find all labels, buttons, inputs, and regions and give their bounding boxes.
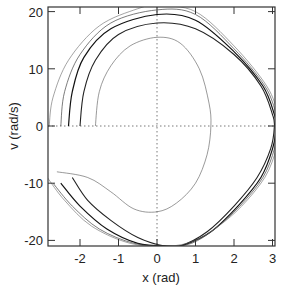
y-axis-ticks: -20-1001020: [24, 5, 275, 249]
y-axis-label: v (rad/s): [6, 102, 21, 150]
plot-frame: [48, 7, 275, 246]
x-tick-label: 2: [230, 251, 237, 266]
y-tick-label: 20: [29, 5, 43, 20]
x-tick-label: 1: [192, 251, 199, 266]
x-tick-label: -1: [113, 251, 125, 266]
x-axis-label: x (rad): [142, 270, 180, 285]
y-tick-label: 0: [36, 119, 43, 134]
grid-lines: [48, 7, 275, 246]
y-tick-label: -10: [24, 176, 43, 191]
y-tick-label: 10: [29, 62, 43, 77]
trajectory-orbit-3: [61, 14, 277, 247]
trajectory-curves: [47, 6, 280, 248]
x-tick-label: 0: [153, 251, 160, 266]
phase-plot: -2-10123 -20-1001020 x (rad) v (rad/s): [0, 0, 289, 290]
x-tick-label: -2: [74, 251, 86, 266]
trajectory-orbit-2: [72, 23, 274, 248]
trajectory-orbit-4: [53, 9, 278, 246]
y-tick-label: -20: [24, 233, 43, 248]
x-tick-label: 3: [269, 251, 276, 266]
